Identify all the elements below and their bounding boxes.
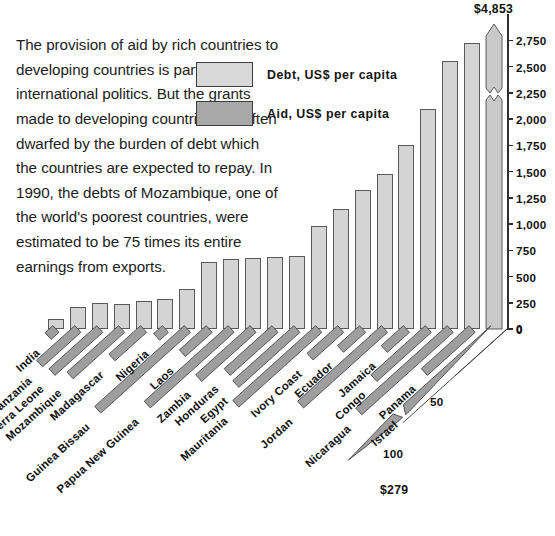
aid-axis-guide	[455, 329, 507, 376]
country-label: Papua New Guinea	[55, 415, 142, 495]
debt-bar	[201, 262, 217, 329]
aid-tick-label-50: 50	[430, 395, 444, 408]
debt-bar	[157, 299, 173, 329]
debt-bar	[377, 174, 393, 329]
aid-bar	[224, 326, 278, 376]
debt-bar	[355, 190, 371, 329]
aid-bar	[37, 326, 81, 367]
aid-bar	[421, 326, 475, 376]
y-axis-tick	[507, 92, 513, 94]
y-axis-tick	[507, 223, 513, 225]
debt-bar	[70, 307, 86, 329]
debt-bar-plot	[45, 14, 505, 329]
aid-tick-label-0: 0	[516, 322, 523, 335]
aid-axis-guide	[403, 329, 507, 423]
y-axis-tick-label: 2,250	[516, 86, 547, 99]
debt-bar	[223, 259, 239, 329]
country-label: Panama	[377, 383, 418, 422]
country-label: India	[14, 347, 43, 374]
aid-bar	[337, 326, 365, 353]
country-label: Nicaragua	[302, 422, 352, 469]
israel-aid-value-label: $279	[380, 483, 408, 497]
aid-bar-broken-upper	[403, 326, 491, 415]
debt-bar	[179, 289, 195, 329]
debt-bar	[114, 304, 130, 329]
aid-bar	[381, 326, 409, 353]
y-axis-tick-label: 1,500	[516, 165, 547, 178]
top-value-label: $4,853	[474, 2, 513, 16]
debt-bar	[464, 43, 480, 329]
y-axis-tick-label: 2,000	[516, 113, 547, 126]
country-label: Israel	[369, 419, 400, 449]
infographic-canvas: The provision of aid by rich countries t…	[0, 0, 555, 536]
aid-bar	[196, 326, 256, 382]
y-axis-tick-label: 1,250	[516, 191, 547, 204]
debt-bar	[442, 61, 458, 329]
debt-bar	[333, 209, 349, 329]
country-label: Laos	[148, 364, 176, 391]
y-axis-tick	[507, 328, 513, 330]
y-axis-tick-label: 2,750	[516, 34, 547, 47]
aid-bar	[307, 326, 344, 360]
y-axis-tick-label: 1,000	[516, 218, 547, 231]
debt-bar	[267, 257, 283, 329]
debt-bar	[48, 319, 64, 329]
debt-bar	[398, 145, 414, 329]
y-axis-tick-label: 500	[516, 270, 536, 283]
aid-bar	[49, 326, 103, 376]
y-axis-tick	[507, 250, 513, 252]
debt-bar	[420, 109, 436, 330]
y-axis-tick-label: 750	[516, 244, 536, 257]
y-axis-tick	[507, 302, 513, 304]
country-label: Jordan	[257, 415, 294, 450]
debt-bar	[92, 303, 108, 329]
aid-bar	[371, 326, 431, 382]
y-axis-tick	[507, 145, 513, 147]
country-label: Nigeria	[113, 348, 151, 384]
y-axis-tick-label: 2,500	[516, 60, 547, 73]
y-axis-tick	[507, 66, 513, 68]
aid-bar	[179, 326, 212, 357]
y-axis-tick-label: 250	[516, 296, 536, 309]
y-axis-tick-label: 1,750	[516, 139, 547, 152]
debt-bar	[311, 226, 327, 329]
y-axis-tick	[507, 118, 513, 120]
debt-bar	[289, 256, 305, 330]
aid-tick-label-100: 100	[383, 447, 403, 460]
y-axis-tick	[507, 197, 513, 199]
y-axis-tick	[507, 276, 513, 278]
debt-bar	[136, 301, 152, 329]
y-axis-tick	[507, 40, 513, 42]
y-axis-tick	[507, 171, 513, 173]
debt-bar	[245, 258, 261, 329]
